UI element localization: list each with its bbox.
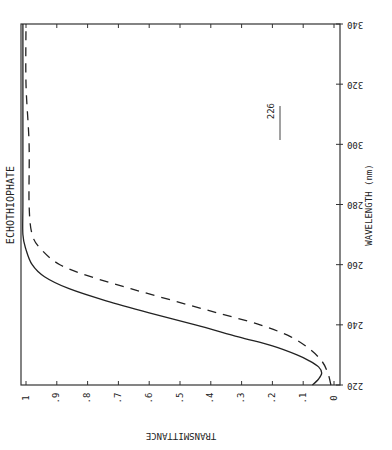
compound-title: ECHOTHIOPHATE (5, 166, 16, 244)
transmittance-tick-label: .6 (144, 393, 154, 404)
annotation-226: 226 (266, 103, 280, 140)
transmittance-tick-label: 0 (329, 395, 339, 400)
transmittance-tick-label: .3 (236, 393, 246, 404)
wavelength-tick-label: 240 (347, 320, 363, 330)
transmittance-tick-label: .4 (205, 393, 215, 404)
transmittance-tick-label: .7 (113, 393, 123, 404)
chart: 220240260280300320340 0.1.2.3.4.5.6.7.8.… (0, 0, 392, 450)
plot-frame (21, 24, 340, 385)
transmittance-tick-label: .1 (298, 393, 308, 404)
transmittance-tick-label: 1 (21, 395, 31, 400)
spectrum-curves (23, 24, 331, 385)
wavelength-tick-label: 280 (347, 200, 363, 210)
wavelength-tick-label: 220 (347, 381, 363, 391)
wavelength-axis-label: WAVELENGTH (nm) (364, 164, 374, 245)
axis-labels: ECHOTHIOPHATE WAVELENGTH (nm) TRANSMITTA… (5, 103, 374, 441)
transmittance-axis-label: TRANSMITTANCE (146, 431, 216, 441)
transmittance-tick-label: .2 (267, 393, 277, 404)
wavelength-tick-label: 340 (347, 20, 363, 30)
wavelength-tick-label: 260 (347, 260, 363, 270)
wavelength-tick-label: 320 (347, 80, 363, 90)
transmittance-tick-label: .5 (175, 393, 185, 404)
transmittance-tick-label: .9 (51, 393, 61, 404)
transmittance-axis-ticks: 0.1.2.3.4.5.6.7.8.91 (21, 24, 339, 403)
annotation-label: 226 (266, 103, 276, 119)
transmittance-tick-label: .8 (82, 393, 92, 404)
dashed-curve (26, 24, 331, 385)
wavelength-tick-label: 300 (347, 140, 363, 150)
